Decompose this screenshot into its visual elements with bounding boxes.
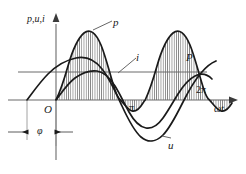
origin-label: O bbox=[44, 104, 52, 115]
waveform-plot-svg bbox=[0, 0, 246, 174]
curve-label-p: p bbox=[113, 17, 119, 28]
i-label-leader bbox=[118, 58, 136, 73]
y-axis-label: p,u,i bbox=[27, 14, 45, 24]
curve-label-P-average: P bbox=[186, 52, 193, 63]
phase-angle-dimension bbox=[8, 100, 73, 146]
curve-label-u: u bbox=[168, 140, 174, 151]
x-tick-label-2pi: 2π bbox=[196, 85, 206, 95]
curve-label-i: i bbox=[136, 52, 139, 63]
power-waveform-figure: p,u,i ωt O p i P u π 2π φ bbox=[0, 0, 246, 174]
u-label-leader bbox=[162, 136, 171, 138]
x-axis-label: ωt bbox=[214, 104, 224, 114]
x-tick-label-pi: π bbox=[129, 103, 134, 113]
phase-angle-label: φ bbox=[37, 126, 43, 136]
p-label-leader bbox=[93, 21, 112, 30]
